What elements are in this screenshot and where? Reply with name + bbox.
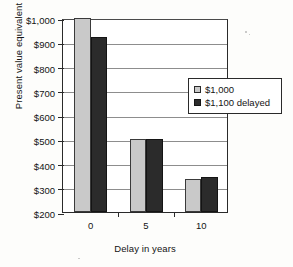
y-axis-tick bbox=[58, 214, 64, 215]
y-axis-tick-label: $200 bbox=[34, 209, 55, 220]
y-axis-tick-label: $500 bbox=[34, 136, 55, 147]
legend-swatch-series-1-icon bbox=[194, 86, 201, 93]
bar-0-series-2 bbox=[91, 37, 108, 212]
y-axis-tick bbox=[58, 141, 64, 142]
y-axis-tick-label: $600 bbox=[34, 112, 55, 123]
y-axis-tick bbox=[58, 92, 64, 93]
y-axis-tick bbox=[58, 117, 64, 118]
y-axis-tick-label: $700 bbox=[34, 87, 55, 98]
legend-label: $1,100 delayed bbox=[205, 97, 270, 108]
y-axis-tick-label: $400 bbox=[34, 160, 55, 171]
scan-speckle bbox=[78, 258, 80, 259]
y-axis-tick-label: $300 bbox=[34, 184, 55, 195]
bar-5-series-2 bbox=[146, 139, 163, 212]
plot-area: $1,000$900$800$700$600$500$400$300$20005… bbox=[62, 19, 228, 213]
bar-5-series-1 bbox=[130, 139, 147, 212]
y-axis-tick-label: $900 bbox=[34, 39, 55, 50]
x-axis-tick-label: 0 bbox=[88, 220, 93, 231]
chart-legend: $1,000 $1,100 delayed bbox=[188, 78, 282, 114]
legend-entry: $1,000 bbox=[194, 83, 276, 96]
y-axis-tick bbox=[58, 44, 64, 45]
legend-entry: $1,100 delayed bbox=[194, 96, 276, 109]
x-axis-tick-label: 10 bbox=[196, 220, 207, 231]
x-axis-tick bbox=[118, 212, 119, 217]
y-axis-tick bbox=[58, 20, 64, 21]
scan-speckle bbox=[245, 31, 247, 33]
legend-label: $1,000 bbox=[205, 84, 234, 95]
y-axis-tick bbox=[58, 165, 64, 166]
x-axis-tick bbox=[174, 212, 175, 217]
x-axis-tick-label: 5 bbox=[143, 220, 148, 231]
legend-swatch-series-2-icon bbox=[194, 99, 201, 106]
y-axis-tick-label: $1,000 bbox=[26, 15, 55, 26]
bar-0-series-1 bbox=[74, 18, 91, 212]
y-axis-tick bbox=[58, 189, 64, 190]
bar-10-series-2 bbox=[201, 177, 218, 212]
y-axis-title: Present value equivalent bbox=[13, 0, 27, 142]
y-axis-tick bbox=[58, 68, 64, 69]
scan-speckle bbox=[249, 34, 250, 35]
x-axis-title: Delay in years bbox=[62, 243, 228, 254]
bar-chart-figure: Present value equivalent $1,000$900$800$… bbox=[0, 0, 293, 267]
y-axis-tick-label: $800 bbox=[34, 63, 55, 74]
bar-10-series-1 bbox=[185, 179, 202, 212]
